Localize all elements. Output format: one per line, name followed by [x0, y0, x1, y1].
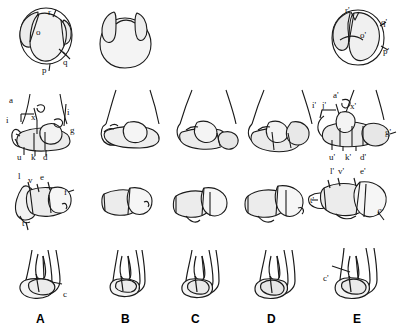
label-p: p: [42, 66, 47, 75]
label-g: g: [70, 126, 75, 135]
label-p-prime: p': [383, 47, 389, 56]
label-d: d: [43, 153, 48, 162]
specimen-row1-col-e: [322, 2, 394, 74]
label-e: e: [40, 173, 44, 182]
specimen-row3-col-b: [100, 182, 162, 226]
figure-container: r o q p r' q' o' p' a i x i g u k d a' i…: [0, 0, 400, 332]
label-k: k: [31, 153, 36, 162]
label-f: f: [64, 188, 67, 197]
label-o: o: [36, 28, 41, 37]
specimen-row4-col-d: [250, 248, 304, 300]
label-g-prime: g': [385, 128, 391, 137]
label-q-prime: q': [381, 18, 387, 27]
label-c: c: [63, 290, 67, 299]
specimen-row2-col-e: [306, 88, 398, 164]
specimen-row3-col-d: [242, 180, 314, 228]
column-letter-b: B: [121, 312, 130, 326]
specimen-row2-col-b: [98, 88, 170, 166]
specimen-row4-col-e: [330, 246, 390, 300]
label-a-prime: a': [333, 91, 339, 100]
label-f-prime: f': [377, 208, 382, 217]
label-l-prime: l': [330, 167, 334, 176]
label-u-prime: u': [329, 153, 335, 162]
label-v: v: [28, 176, 33, 185]
label-r: r: [48, 8, 51, 17]
label-v-prime: v': [338, 167, 344, 176]
label-e-prime: e': [360, 167, 366, 176]
label-o-prime: o': [360, 31, 366, 40]
label-x: x: [31, 113, 36, 122]
specimen-row4-col-b: [104, 248, 156, 300]
label-a: a: [9, 96, 13, 105]
label-c-prime: c': [323, 274, 329, 283]
column-letter-c: C: [191, 312, 200, 326]
specimen-row3-col-c: [172, 182, 238, 228]
specimen-row3-col-a: [8, 176, 80, 234]
label-d-prime: d': [360, 153, 366, 162]
specimen-row3-col-e: [306, 174, 394, 230]
column-letter-a: A: [36, 312, 45, 326]
label-r-prime: r': [345, 6, 350, 15]
specimen-row1-col-b: [92, 4, 160, 74]
label-i-prime: i': [312, 101, 316, 110]
label-u: u: [17, 153, 22, 162]
label-t-prime: t': [310, 196, 314, 205]
label-x-prime: x': [350, 102, 356, 111]
specimen-row4-col-c: [176, 248, 228, 300]
specimen-row2-col-c: [172, 88, 248, 166]
label-i-right: i: [67, 108, 70, 117]
label-k-prime: k': [345, 153, 351, 162]
label-l: l: [18, 172, 21, 181]
column-letter-d: D: [267, 312, 276, 326]
label-t: t: [22, 219, 25, 228]
specimen-row1-col-a: [8, 2, 86, 76]
label-i-left: i: [6, 116, 9, 125]
column-letter-e: E: [353, 312, 361, 326]
label-q: q: [63, 58, 68, 67]
label-j-prime: j': [322, 101, 326, 110]
